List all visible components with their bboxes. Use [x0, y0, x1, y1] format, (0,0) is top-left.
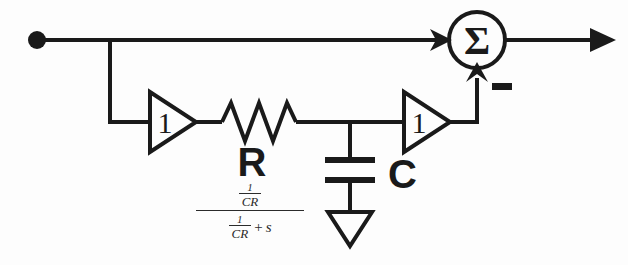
ground-symbol-icon: [328, 212, 372, 246]
circuit-diagram-canvas: Σ 1 R C 1: [0, 0, 628, 265]
denominator-fraction: 1 CR: [229, 214, 252, 240]
wire-input-branch-to-left-amp: [110, 40, 150, 122]
transfer-function-denominator: 1 CR +s: [196, 211, 304, 240]
numerator-fraction-top: 1: [239, 182, 262, 194]
capacitor-label: C: [388, 152, 417, 196]
circuit-schematic: Σ 1 R C 1: [0, 0, 628, 265]
feedback-minus-sign: [492, 83, 512, 90]
denominator-fraction-top: 1: [229, 214, 252, 226]
output-arrow-icon: [590, 28, 616, 52]
denominator-operator: +: [251, 220, 265, 235]
resistor-label: R: [238, 140, 267, 184]
transfer-function-numerator: 1 CR: [196, 182, 304, 211]
denominator-fraction-bottom: CR: [229, 226, 252, 240]
numerator-fraction: 1 CR: [239, 182, 262, 208]
denominator-laplace-variable: s: [266, 220, 272, 235]
summation-sigma-symbol: Σ: [464, 18, 490, 63]
resistor-zigzag: [222, 103, 296, 141]
numerator-fraction-bottom: CR: [239, 194, 262, 208]
buffer-amplifier-left-gain-label: 1: [158, 106, 173, 139]
input-node-dot: [28, 31, 46, 49]
transfer-function-annotation: 1 CR 1 CR +s: [196, 182, 304, 240]
buffer-amplifier-right-gain-label: 1: [412, 106, 427, 139]
wire-feedback-to-summing-junction: [450, 78, 477, 122]
